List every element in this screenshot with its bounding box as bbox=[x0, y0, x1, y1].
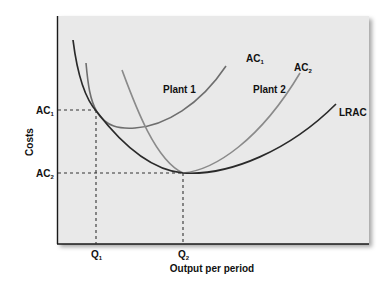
y-tick-ac1: AC1 bbox=[36, 105, 54, 117]
x-axis-title: Output per period bbox=[170, 263, 254, 274]
y-axis-title: Costs bbox=[24, 128, 35, 156]
plot-panel bbox=[57, 16, 369, 244]
plant1-label: Plant 1 bbox=[163, 84, 196, 95]
x-tick-q1: Q1 bbox=[91, 249, 103, 261]
cost-curves-chart: AC1 AC2 Plant 1 Plant 2 LRAC AC1 AC2 Q1 … bbox=[0, 0, 389, 288]
x-tick-q2: Q2 bbox=[178, 249, 190, 261]
y-tick-ac2: AC2 bbox=[36, 168, 54, 180]
lrac-label: LRAC bbox=[339, 107, 367, 118]
plant2-label: Plant 2 bbox=[253, 84, 286, 95]
